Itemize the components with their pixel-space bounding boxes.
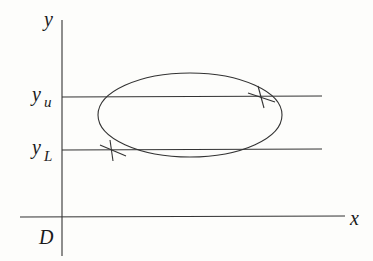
x-axis-label: x <box>349 207 359 229</box>
svg-text:L: L <box>43 148 52 164</box>
svg-text:y: y <box>30 83 41 106</box>
upper-tangent-mark <box>248 86 275 108</box>
svg-text:u: u <box>44 94 52 110</box>
ellipse-curve <box>98 73 282 157</box>
y-axis-label: y <box>42 8 53 31</box>
lower-level-line <box>62 149 322 150</box>
ellipse-diagram: y x D y u y L <box>0 0 373 261</box>
upper-level-label: y u <box>30 83 52 110</box>
svg-text:y: y <box>30 136 41 159</box>
upper-level-line <box>62 96 322 97</box>
x-axis <box>20 216 345 217</box>
lower-level-label: y L <box>30 136 52 164</box>
region-label: D <box>38 226 54 248</box>
